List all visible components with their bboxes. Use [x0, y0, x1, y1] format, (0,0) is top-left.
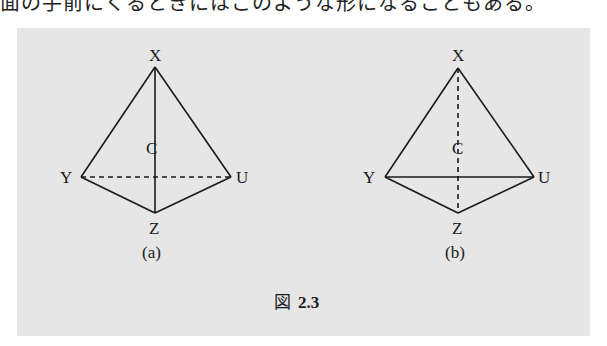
vertex-label-b-X: X: [452, 46, 464, 65]
edge-b-XU: [458, 68, 534, 177]
edge-a-XY: [81, 67, 155, 177]
vertex-label-a-U: U: [236, 168, 248, 187]
center-label-b-C: C: [452, 139, 463, 158]
edge-b-UZ: [458, 177, 534, 213]
vertex-label-a-X: X: [149, 46, 161, 65]
vertex-label-b-Z: Z: [452, 219, 462, 238]
edge-a-XU: [155, 67, 231, 177]
labels-b: X Y U Z C (b): [363, 46, 550, 262]
vertex-label-a-Z: Z: [149, 219, 159, 238]
diagram-label-b: (b): [445, 243, 465, 262]
edge-a-UZ: [155, 177, 231, 213]
vertex-label-b-U: U: [538, 168, 550, 187]
vertex-label-b-Y: Y: [363, 168, 375, 187]
caption-number: 2.3: [298, 293, 319, 312]
vertex-label-a-Y: Y: [60, 168, 72, 187]
figure-caption: 図 2.3: [274, 293, 319, 312]
labels-a: X Y U Z C (a): [60, 46, 248, 262]
caption-prefix: 図: [274, 293, 291, 312]
edge-b-XY: [385, 68, 458, 177]
edge-b-YZ: [385, 177, 458, 213]
diagram-label-a: (a): [142, 243, 161, 262]
edge-a-YZ: [81, 177, 155, 213]
center-label-a-C: C: [146, 139, 157, 158]
figure-drawing: X Y U Z C (a) X Y U Z C (b) 図 2.3: [0, 0, 607, 346]
